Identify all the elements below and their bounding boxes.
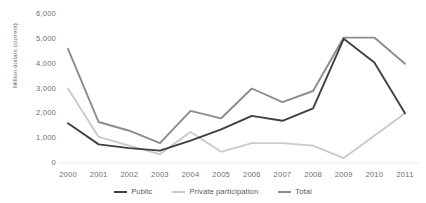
legend-swatch-icon	[114, 191, 127, 193]
x-axis-tick-label: 2007	[274, 171, 292, 179]
x-axis-tick-label: 2003	[151, 171, 169, 179]
x-axis-tick-label: 2002	[120, 171, 138, 179]
x-axis-tick-label: 2010	[366, 171, 384, 179]
chart-legend: PublicPrivate participationTotal	[0, 188, 426, 196]
x-axis-tick-label: 2008	[304, 171, 322, 179]
x-axis-ticks: 2000200120022003200420052006200720082009…	[0, 171, 426, 183]
x-axis-tick-label: 2011	[396, 171, 413, 179]
x-axis-tick-label: 2004	[182, 171, 200, 179]
line-chart: 01,0002,0003,0004,0005,0006,000 Million …	[0, 0, 426, 203]
legend-swatch-icon	[278, 191, 291, 193]
x-axis-tick-label: 2001	[90, 171, 108, 179]
x-axis-tick-label: 2005	[212, 171, 230, 179]
x-axis-tick-label: 2009	[335, 171, 353, 179]
series-line-total	[68, 38, 405, 144]
legend-item[interactable]: Public	[114, 188, 152, 196]
legend-item[interactable]: Total	[278, 188, 312, 196]
series-line-public	[68, 39, 405, 151]
legend-item[interactable]: Private participation	[172, 188, 258, 196]
legend-item-label: Private participation	[189, 188, 258, 196]
legend-item-label: Public	[131, 188, 152, 196]
x-axis-tick-label: 2006	[243, 171, 261, 179]
legend-item-label: Total	[295, 188, 312, 196]
legend-swatch-icon	[172, 191, 185, 193]
x-axis-tick-label: 2000	[59, 171, 77, 179]
